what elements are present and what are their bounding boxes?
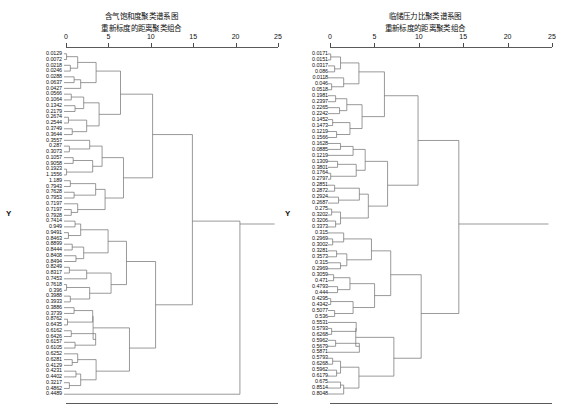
panel-right-titles: 临储压力比聚类谱系图 重新标度的距离聚类组合: [283, 11, 567, 35]
x-tick-label-20: 20: [504, 33, 512, 40]
leaf-label: 0.8048: [312, 391, 328, 396]
x-tick-label-15: 15: [459, 33, 467, 40]
x-tick-label-0: 0: [64, 33, 68, 40]
leaf-label: 0.4489: [46, 391, 62, 396]
dendrogram-panel-right: 临储压力比聚类谱系图 重新标度的距离聚类组合 Y 0510152025 0.01…: [283, 0, 567, 411]
x-tick-label-25: 25: [274, 33, 282, 40]
x-tick-label-5: 5: [106, 33, 110, 40]
x-tick-mark-25: [278, 43, 279, 47]
x-tick-label-10: 10: [415, 33, 423, 40]
panel-left-title: 含气饱和度聚类谱系图: [0, 11, 283, 23]
panel-right-axis-rule-bottom: [330, 403, 552, 404]
x-tick-label-20: 20: [232, 33, 240, 40]
x-tick-label-0: 0: [328, 33, 332, 40]
panel-left-axis-rule-bottom: [66, 403, 278, 404]
panel-right-dendrogram-tree: [328, 48, 552, 400]
panel-right-x-axis: 0510152025: [283, 34, 567, 48]
panel-right-title: 临储压力比聚类谱系图: [283, 11, 567, 23]
x-tick-mark-25: [552, 43, 553, 47]
panel-left-titles: 含气饱和度聚类谱系图 重新标度的距离聚类组合: [0, 11, 283, 35]
x-tick-label-5: 5: [372, 33, 376, 40]
panel-right-y-axis-label: Y: [285, 209, 290, 218]
panel-left-dendrogram-tree: [64, 48, 278, 400]
panel-left-x-axis: 0510152025: [0, 34, 283, 48]
dendrogram-panel-left: 含气饱和度聚类谱系图 重新标度的距离聚类组合 Y 0510152025 0.01…: [0, 0, 283, 411]
x-tick-label-15: 15: [189, 33, 197, 40]
x-tick-label-10: 10: [147, 33, 155, 40]
panel-left-y-axis-label: Y: [6, 209, 11, 218]
figure-canvas: 含气饱和度聚类谱系图 重新标度的距离聚类组合 Y 0510152025 0.01…: [0, 0, 567, 411]
x-tick-label-25: 25: [548, 33, 556, 40]
